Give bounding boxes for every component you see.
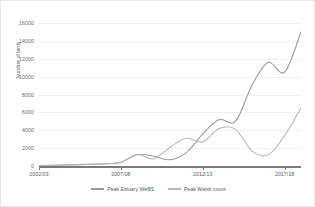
legend-swatch-icon [91, 188, 104, 189]
y-tick-label: 10000 [19, 74, 34, 80]
y-tick-label: 16000 [19, 20, 34, 26]
legend-swatch-icon [168, 188, 181, 189]
x-tick-label: 2012/13 [193, 171, 212, 177]
legend-label: Peak Welsh count [184, 186, 226, 192]
legend-item[interactable]: Peak Estuary WeBS [91, 186, 154, 192]
chart-figure: Number of birds 160001400012000100008000… [0, 0, 315, 207]
x-tick [121, 166, 122, 170]
y-tick-label: 2000 [22, 145, 34, 151]
legend-label: Peak Estuary WeBS [107, 186, 154, 192]
legend-item[interactable]: Peak Welsh count [168, 186, 226, 192]
x-tick [39, 166, 40, 170]
series-line [39, 32, 301, 166]
y-tick-label: 6000 [22, 109, 34, 115]
plot-area [39, 23, 301, 166]
y-tick-label: 12000 [19, 56, 34, 62]
x-axis: 2002/032007/082012/132017/18 [39, 166, 301, 180]
y-axis-tick-labels: 1600014000120001000080006000400020000 [1, 23, 37, 166]
series-lines [39, 23, 301, 166]
y-tick-label: 14000 [19, 38, 34, 44]
chart-legend: Peak Estuary WeBSPeak Welsh count [1, 186, 315, 192]
x-tick-label: 2007/08 [111, 171, 130, 177]
x-tick-label: 2002/03 [29, 171, 48, 177]
y-tick-label: 8000 [22, 92, 34, 98]
y-tick-label: 0 [31, 163, 34, 169]
series-line [39, 108, 301, 166]
x-tick-label: 2017/18 [275, 171, 294, 177]
x-tick [203, 166, 204, 170]
y-tick-label: 4000 [22, 127, 34, 133]
x-tick [285, 166, 286, 170]
x-axis-line [39, 166, 301, 168]
